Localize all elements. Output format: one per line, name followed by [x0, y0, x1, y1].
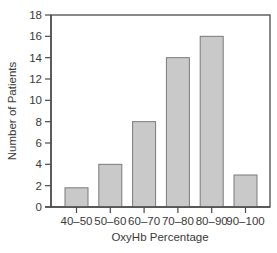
y-axis-title: Number of Patients	[6, 62, 18, 161]
bar-70-80	[166, 58, 189, 207]
y-tick-label: 0	[36, 201, 42, 213]
bar-60-70	[133, 122, 156, 207]
y-tick-label: 10	[29, 94, 42, 106]
chart-canvas: 024681012141618 40–5050–6060–7070–8080–9…	[0, 0, 277, 253]
y-axis: 024681012141618	[29, 9, 51, 213]
bar-40-50	[65, 188, 88, 207]
bar-80-90	[200, 36, 223, 207]
bar-90-100	[234, 175, 257, 207]
x-tick-label: 60–70	[128, 215, 160, 227]
y-tick-label: 14	[29, 52, 42, 64]
x-tick-label: 50–60	[94, 215, 126, 227]
x-tick-label: 40–50	[61, 215, 93, 227]
y-tick-label: 4	[36, 158, 43, 170]
y-tick-label: 6	[36, 137, 42, 149]
y-tick-label: 16	[29, 30, 42, 42]
y-tick-label: 2	[36, 180, 42, 192]
x-tick-label: 80–90	[196, 215, 228, 227]
x-tick-label: 70–80	[162, 215, 194, 227]
y-tick-label: 18	[29, 9, 42, 21]
x-axis: 40–5050–6060–7070–8080–9090–100	[45, 207, 270, 227]
x-axis-title: OxyHb Percentage	[111, 231, 208, 243]
bar-chart: 024681012141618 40–5050–6060–7070–8080–9…	[0, 0, 277, 253]
y-tick-label: 12	[29, 73, 42, 85]
x-tick-label: 90–100	[226, 215, 264, 227]
bar-50-60	[99, 164, 122, 207]
bars	[65, 36, 257, 207]
y-tick-label: 8	[36, 116, 42, 128]
